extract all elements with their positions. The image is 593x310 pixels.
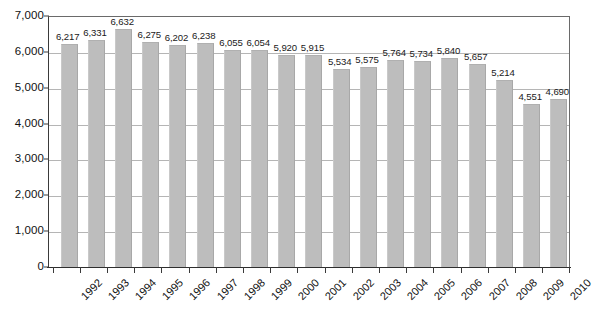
- y-tick-label: 3,000: [0, 154, 44, 166]
- bar[interactable]: [469, 64, 486, 267]
- bar[interactable]: [550, 99, 567, 267]
- bar-value-label: 5,840: [437, 46, 461, 56]
- x-tick-label: 2010: [568, 277, 593, 302]
- bar-group[interactable]: 5,214: [490, 16, 517, 267]
- bar[interactable]: [441, 58, 458, 267]
- bar-value-label: 5,915: [301, 43, 325, 53]
- bar[interactable]: [523, 104, 540, 267]
- bar-group[interactable]: 4,690: [544, 16, 571, 267]
- x-tick-label: 1996: [187, 277, 212, 302]
- bar-value-label: 5,734: [410, 49, 434, 59]
- x-tick-label: 2004: [405, 277, 430, 302]
- bar[interactable]: [305, 55, 322, 267]
- bar-group[interactable]: 6,632: [109, 16, 136, 267]
- bars-layer: 6,2176,3316,6326,2756,2026,2386,0556,054…: [48, 16, 570, 267]
- x-tick-label: 2006: [459, 277, 484, 302]
- bar-value-label: 5,575: [355, 55, 379, 65]
- x-tick-label: 2001: [323, 277, 348, 302]
- bar-group[interactable]: 6,238: [191, 16, 218, 267]
- y-tick-label: 0: [0, 261, 44, 273]
- y-axis: 01,0002,0003,0004,0005,0006,0007,000: [0, 0, 44, 310]
- bar-group[interactable]: 5,575: [354, 16, 381, 267]
- bar-value-label: 5,657: [464, 52, 488, 62]
- x-tick-label: 2007: [487, 277, 512, 302]
- x-tick-label: 2008: [514, 277, 539, 302]
- x-tick-label: 1999: [269, 277, 294, 302]
- bar-group[interactable]: 6,331: [82, 16, 109, 267]
- bar-group[interactable]: 5,920: [272, 16, 299, 267]
- bar-value-label: 6,054: [246, 38, 270, 48]
- x-tick-label: 1998: [242, 277, 267, 302]
- x-tick-label: 2005: [432, 277, 457, 302]
- bar-group[interactable]: 5,915: [299, 16, 326, 267]
- x-tick-label: 2009: [541, 277, 566, 302]
- bar[interactable]: [88, 40, 105, 267]
- y-tick-label: 7,000: [0, 10, 44, 22]
- x-tick-label: 1997: [215, 277, 240, 302]
- x-tick-label: 1993: [106, 277, 131, 302]
- x-tick-label: 2002: [351, 277, 376, 302]
- bar[interactable]: [169, 45, 186, 267]
- y-tick-label: 2,000: [0, 190, 44, 202]
- x-axis-labels: 1992199319941995199619971998199920002001…: [48, 273, 570, 310]
- bar-value-label: 4,690: [546, 87, 570, 97]
- bar-value-label: 5,214: [491, 68, 515, 78]
- bar-group[interactable]: 5,840: [435, 16, 462, 267]
- y-tick-label: 1,000: [0, 225, 44, 237]
- bar[interactable]: [224, 50, 241, 267]
- y-tick-label: 6,000: [0, 46, 44, 58]
- bar-value-label: 5,534: [328, 57, 352, 67]
- bar-value-label: 5,764: [382, 48, 406, 58]
- bar[interactable]: [414, 61, 431, 267]
- x-tick-label: 2003: [378, 277, 403, 302]
- bar[interactable]: [115, 29, 132, 267]
- bar-group[interactable]: 6,202: [163, 16, 190, 267]
- bar-group[interactable]: 5,657: [463, 16, 490, 267]
- bar[interactable]: [142, 42, 159, 267]
- bar[interactable]: [251, 50, 268, 267]
- bar-group[interactable]: 6,055: [218, 16, 245, 267]
- bar-group[interactable]: 5,734: [408, 16, 435, 267]
- bar-value-label: 6,331: [83, 28, 107, 38]
- bar[interactable]: [387, 60, 404, 267]
- bar-value-label: 6,055: [219, 38, 243, 48]
- bar-value-label: 6,275: [138, 30, 162, 40]
- x-tick-label: 1992: [79, 277, 104, 302]
- bar-group[interactable]: 6,275: [136, 16, 163, 267]
- bar[interactable]: [360, 67, 377, 267]
- y-tick-label: 5,000: [0, 82, 44, 94]
- bar-group[interactable]: 6,054: [245, 16, 272, 267]
- bar-value-label: 4,551: [518, 92, 542, 102]
- y-tick-label: 4,000: [0, 118, 44, 130]
- x-tick-label: 1994: [133, 277, 158, 302]
- bar-group[interactable]: 6,217: [55, 16, 82, 267]
- x-tick-label: 1995: [160, 277, 185, 302]
- bar[interactable]: [496, 80, 513, 267]
- bar-value-label: 6,217: [56, 32, 80, 42]
- bar-value-label: 5,920: [274, 43, 298, 53]
- bar-value-label: 6,632: [110, 17, 134, 27]
- bar[interactable]: [197, 43, 214, 267]
- bar-group[interactable]: 5,764: [381, 16, 408, 267]
- bar-value-label: 6,202: [165, 33, 189, 43]
- bar-group[interactable]: 4,551: [517, 16, 544, 267]
- bar[interactable]: [61, 44, 78, 267]
- x-tick-label: 2000: [296, 277, 321, 302]
- bar-group[interactable]: 5,534: [327, 16, 354, 267]
- bar-value-label: 6,238: [192, 31, 216, 41]
- bar[interactable]: [278, 55, 295, 267]
- bar[interactable]: [333, 69, 350, 267]
